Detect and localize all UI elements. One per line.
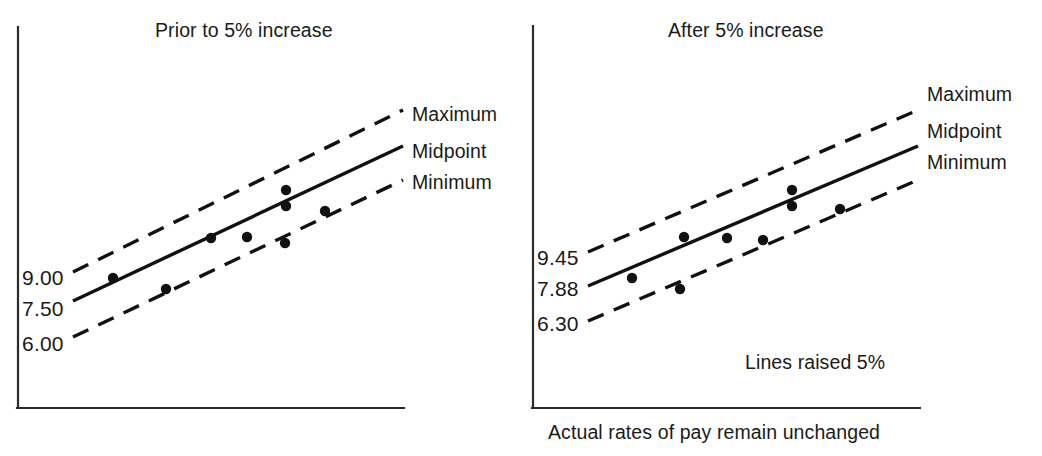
data-point [320,206,330,216]
data-point [679,232,689,242]
data-point [675,284,685,294]
right-chart-title: After 5% increase [668,21,824,41]
data-point [206,233,216,243]
data-point [627,273,637,283]
left-chart-axes [17,27,404,408]
data-point [161,284,171,294]
left-maximum-line [73,110,403,272]
right-tick-label-mid: 7.88 [537,278,579,299]
left-tick-label-max: 9.00 [22,267,64,288]
right-maximum-line [588,110,918,252]
left-legend-minimum: Minimum [412,173,492,193]
lines-raised-note: Lines raised 5% [745,353,885,373]
figure-caption: Actual rates of pay remain unchanged [548,423,880,443]
left-legend-midpoint: Midpoint [412,142,487,162]
data-point [722,233,732,243]
right-chart-bands [588,110,918,321]
right-minimum-line [588,180,918,321]
right-tick-label-max: 9.45 [537,247,579,268]
right-legend-midpoint: Midpoint [927,122,1002,142]
data-point [108,273,118,283]
right-legend-maximum: Maximum [927,85,1012,105]
data-point [787,201,797,211]
left-tick-label-min: 6.00 [22,333,64,354]
data-point [242,232,252,242]
left-legend-maximum: Maximum [412,105,497,125]
left-tick-label-mid: 7.50 [22,298,64,319]
right-legend-minimum: Minimum [927,153,1007,173]
right-midpoint-line [588,146,918,286]
left-midpoint-line [73,146,403,301]
left-chart-title: Prior to 5% increase [155,21,333,41]
right-chart-points [627,185,845,294]
figure-root: Prior to 5% increase 9.00 7.50 6.00 Maxi… [0,0,1042,456]
left-chart-bands [73,110,403,337]
data-point [787,185,797,195]
left-minimum-line [73,180,403,337]
data-point [281,185,291,195]
data-point [758,235,768,245]
data-point [280,238,290,248]
data-point [281,201,291,211]
right-tick-label-min: 6.30 [537,313,579,334]
left-chart-points [108,185,330,294]
data-point [835,204,845,214]
